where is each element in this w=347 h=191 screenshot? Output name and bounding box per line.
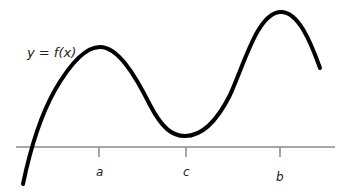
function-label: y = f(x)	[26, 45, 76, 60]
tick-label-a: a	[96, 165, 103, 179]
function-curve	[23, 12, 320, 184]
tick-label-c: c	[183, 165, 190, 179]
tick-label-b: b	[276, 170, 284, 184]
function-diagram: y = f(x) a c b	[0, 0, 347, 191]
